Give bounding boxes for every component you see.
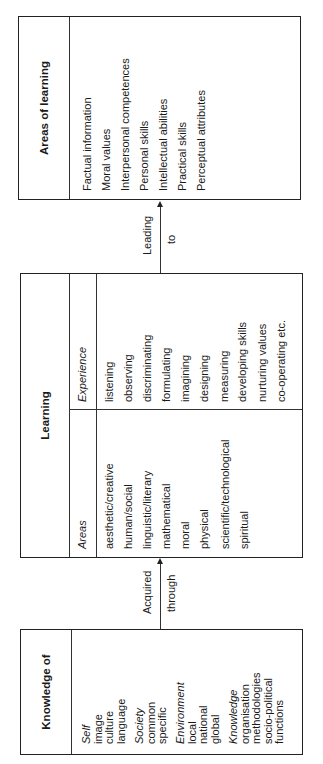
- list-item: Moral values: [100, 129, 112, 191]
- knowledge-of-title: Knowledge of: [21, 630, 72, 754]
- knowledge-of-box: Knowledge of Self image culture language…: [20, 629, 303, 755]
- list-item: listening: [103, 362, 115, 402]
- list-item: designing: [198, 355, 210, 402]
- list-item: Factual information: [81, 97, 93, 191]
- connector-label-bottom: through: [165, 575, 177, 612]
- list-item: human/social: [122, 484, 134, 549]
- group-heading: Society: [134, 702, 146, 744]
- column-divider: [69, 409, 302, 410]
- areas-of-learning-title-text: Areas of learning: [38, 61, 50, 155]
- learning-title: Learning: [21, 274, 70, 557]
- arrow-right-icon: [157, 558, 163, 564]
- list-item: physical: [198, 509, 210, 549]
- group-heading: Environment: [175, 682, 187, 744]
- group-item: culture: [104, 699, 116, 744]
- list-item: moral: [179, 521, 191, 549]
- connector-line: [160, 206, 161, 273]
- connector-label-top: Acquired: [141, 571, 153, 614]
- list-item: mathematical: [160, 484, 172, 549]
- list-item: linguistic/literary: [141, 471, 153, 549]
- list-item: Intellectual abilities: [157, 99, 169, 191]
- group-society: Society common specific: [134, 702, 169, 744]
- list-item: Perceptual attributes: [195, 90, 207, 191]
- group-item: methodologies: [251, 672, 263, 744]
- list-item: developing skills: [236, 322, 248, 402]
- list-item: co-operating etc.: [275, 320, 287, 402]
- connector-line: [160, 563, 161, 629]
- list-item: aesthetic/creative: [103, 463, 115, 549]
- list-item: spiritual: [238, 511, 250, 549]
- learning-title-text: Learning: [39, 391, 51, 440]
- list-item: measuring: [218, 351, 230, 402]
- diagram-canvas: Knowledge of Self image culture language…: [0, 0, 323, 764]
- group-self: Self image culture language: [81, 699, 127, 744]
- group-environment: Environment local national global: [175, 682, 221, 744]
- list-item: Interpersonal competences: [119, 58, 131, 191]
- group-item: functions: [274, 672, 286, 744]
- list-item: nurturing values: [256, 324, 268, 402]
- list-item: imagining: [179, 355, 191, 402]
- list-item: observing: [122, 354, 134, 402]
- arrow-right-icon: [157, 201, 163, 207]
- group-item: global: [210, 682, 222, 744]
- group-heading: Knowledge: [228, 672, 240, 744]
- areas-column-header: Areas: [76, 520, 88, 549]
- experience-column-header: Experience: [76, 347, 88, 402]
- areas-of-learning-title: Areas of learning: [19, 17, 70, 199]
- group-knowledge: Knowledge organisation methodologies soc…: [228, 672, 286, 744]
- list-item: discriminating: [141, 335, 153, 402]
- group-heading: Self: [81, 699, 93, 744]
- list-item: Practical skills: [176, 122, 188, 191]
- list-item: formulating: [160, 348, 172, 402]
- areas-of-learning-box: Areas of learning Factual information Mo…: [18, 16, 301, 200]
- list-item: Personal skills: [138, 121, 150, 191]
- learning-box: Learning Areas aesthetic/creative human/…: [20, 273, 303, 558]
- group-item: language: [116, 699, 128, 744]
- connector-label-top: Leading: [141, 216, 153, 255]
- group-item: national: [198, 682, 210, 744]
- group-item: specific: [157, 702, 169, 744]
- list-item: scientific/technological: [219, 440, 231, 549]
- knowledge-of-title-text: Knowledge of: [40, 654, 52, 729]
- connector-label-bottom: to: [165, 235, 177, 244]
- column-header-divider: [96, 274, 97, 557]
